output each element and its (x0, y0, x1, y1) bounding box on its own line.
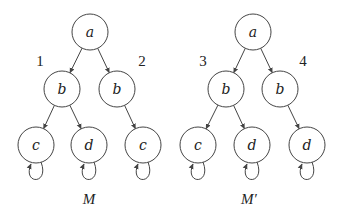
edge-M-prime-b1-c1 (206, 105, 218, 129)
self-loop-M-prime-d2 (300, 162, 314, 180)
diagram-caption-M: M (82, 191, 97, 207)
state-label: d (248, 137, 257, 153)
state-label: c (194, 137, 202, 153)
edge-M-prime-b1-d1 (234, 105, 245, 128)
state-label: c (32, 137, 40, 153)
self-loop-M-prime-c1 (191, 162, 205, 180)
edge-M-prime-a-b2 (261, 48, 273, 72)
state-node-M-prime-a: a (235, 14, 271, 50)
branch-label-1: 1 (36, 53, 44, 69)
state-node-M-c1: c (18, 127, 54, 163)
edge-M-b2-c2 (125, 105, 136, 128)
state-node-M-prime-d2: d (289, 127, 325, 163)
state-node-M-b2: b (99, 71, 135, 107)
edge-M-b1-c1 (44, 105, 55, 128)
self-loop-M-c1 (29, 162, 43, 180)
state-node-M-prime-c1: c (180, 127, 216, 163)
self-loop-M-prime-d1 (245, 162, 259, 180)
state-label: a (249, 24, 257, 40)
state-label: b (58, 81, 67, 97)
state-node-M-c2: c (125, 127, 161, 163)
edge-M-prime-a-b1 (234, 48, 246, 72)
edge-M-a-b2 (98, 48, 110, 72)
state-node-M-prime-d1: d (234, 127, 270, 163)
state-label: d (85, 137, 94, 153)
branch-label-4: 4 (299, 53, 307, 69)
self-loop-M-d1 (82, 162, 96, 180)
state-node-M-d1: d (71, 127, 107, 163)
kripke-structures-diagram: abbcdcabbcdd 12M34M′ (0, 0, 343, 220)
state-node-M-a: a (72, 14, 108, 50)
edge-M-prime-b2-d2 (288, 105, 299, 129)
self-loop-M-c2 (136, 162, 150, 180)
state-node-M-prime-b2: b (262, 71, 298, 107)
branch-label-3: 3 (199, 53, 207, 69)
branch-label-2: 2 (138, 53, 146, 69)
state-label: a (86, 24, 94, 40)
state-label: b (222, 81, 231, 97)
state-node-M-prime-b1: b (208, 71, 244, 107)
state-label: d (303, 137, 312, 153)
state-label: c (139, 137, 147, 153)
state-label: b (276, 81, 285, 97)
edge-M-a-b1 (70, 48, 82, 73)
edge-M-b1-d1 (70, 105, 81, 129)
diagram-caption-M-prime: M′ (240, 191, 257, 207)
state-label: b (113, 81, 122, 97)
state-node-M-b1: b (44, 71, 80, 107)
